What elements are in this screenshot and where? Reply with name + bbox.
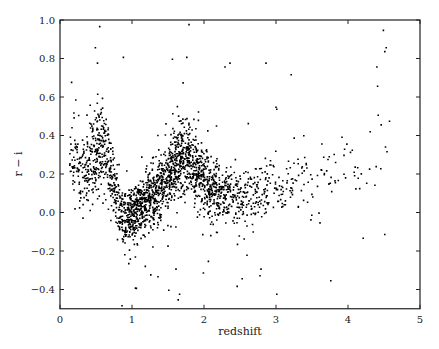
plot-frame [60, 20, 420, 309]
y-tick-label: 0.8 [39, 53, 55, 64]
scatter-markers [69, 24, 390, 307]
y-axis: −0.4−0.20.00.20.40.60.81.0 [31, 15, 420, 296]
x-axis-label: redshift [218, 325, 262, 338]
y-tick-label: −0.2 [31, 246, 55, 257]
scatter-chart: 012345 −0.4−0.20.00.20.40.60.81.0 redshi… [0, 0, 439, 349]
y-tick-label: 1.0 [39, 15, 55, 26]
x-tick-label: 5 [417, 314, 423, 325]
x-tick-label: 0 [57, 314, 63, 325]
y-tick-label: 0.4 [39, 130, 55, 141]
y-tick-label: 0.2 [39, 169, 55, 180]
y-tick-label: −0.4 [31, 284, 55, 295]
y-tick-label: 0.6 [39, 92, 55, 103]
x-tick-label: 2 [201, 314, 207, 325]
data-points [69, 24, 390, 307]
y-axis-label: r − i [12, 151, 25, 176]
x-tick-label: 3 [273, 314, 279, 325]
x-tick-label: 1 [129, 314, 135, 325]
x-tick-label: 4 [345, 314, 351, 325]
y-tick-label: 0.0 [39, 207, 55, 218]
